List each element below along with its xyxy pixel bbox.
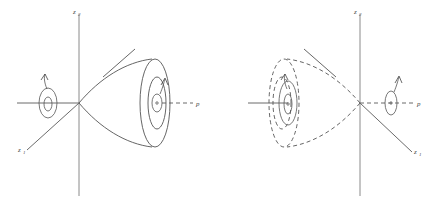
left-z2-axis-label: z <box>72 8 76 16</box>
right-panel: z 2 z 1 p <box>248 8 422 196</box>
right-panel-left-vortex-center-dot <box>287 103 289 105</box>
left-diagonal-axis <box>27 103 79 150</box>
right-tangent-line <box>304 49 336 77</box>
right-cone-lower-edge <box>287 103 360 147</box>
right-p-axis-label: p <box>416 100 421 108</box>
left-z2-axis-label-sub: 2 <box>78 12 81 17</box>
right-z1-axis-label-sub: 1 <box>419 152 422 157</box>
right-z1-axis-label: z <box>413 148 417 156</box>
right-panel-left-vortex <box>279 74 297 125</box>
left-cone-lower-edge <box>79 103 152 147</box>
right-z2-axis-label: z <box>353 8 357 16</box>
right-vortex-inner-ellipse <box>152 94 162 112</box>
left-panel-left-vortex <box>39 74 57 118</box>
right-z2-axis-label-sub: 2 <box>359 12 362 17</box>
left-p-axis-label: p <box>195 100 200 108</box>
right-vortex-center-dot <box>156 102 158 104</box>
right-panel-right-vortex <box>385 76 402 115</box>
left-panel: z 2 z 1 p <box>17 8 200 196</box>
left-vortex-inner-ellipse <box>44 97 52 111</box>
left-z1-axis-label: z <box>17 146 21 154</box>
invariant-cone-diagram: z 2 z 1 p <box>0 0 438 203</box>
figure-root: z 2 z 1 p <box>0 0 438 203</box>
left-z1-axis-label-sub: 1 <box>23 150 26 155</box>
right-panel-right-vortex-arrow-stem <box>394 77 399 92</box>
left-tangent-line <box>103 49 135 77</box>
